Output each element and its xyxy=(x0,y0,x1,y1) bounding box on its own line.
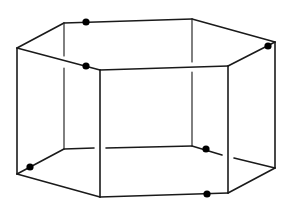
top-face xyxy=(17,19,275,70)
bottom-edge-backright-right-b xyxy=(234,158,275,168)
top-edge-front xyxy=(100,66,228,70)
point-p5 xyxy=(202,145,209,152)
bottom-edge-back-a xyxy=(64,148,94,149)
point-p2 xyxy=(82,62,89,69)
point-p1 xyxy=(82,18,89,25)
point-p6 xyxy=(203,190,210,197)
bottom-edge-left-backleft xyxy=(17,149,64,174)
point-p3 xyxy=(264,42,271,49)
hexagonal-prism-diagram xyxy=(0,0,291,207)
bottom-face xyxy=(17,146,275,197)
top-edge-left-backleft xyxy=(17,23,64,48)
marked-points xyxy=(26,18,271,197)
vertical-edges xyxy=(17,19,275,197)
point-p4 xyxy=(26,163,33,170)
bottom-edge-right-frontright xyxy=(228,168,275,193)
top-edge-backright-right xyxy=(192,19,275,42)
bottom-edge-frontleft-left xyxy=(17,174,100,197)
bottom-edge-back-b xyxy=(106,146,192,148)
